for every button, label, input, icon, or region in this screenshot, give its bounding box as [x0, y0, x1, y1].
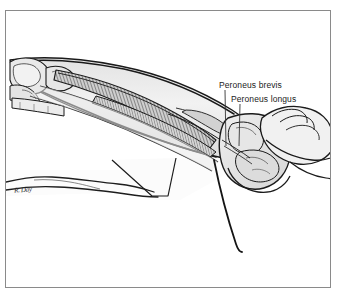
figure-root: Peroneus brevis Peroneus longus R. Day — [0, 0, 337, 299]
label-peroneus-longus: Peroneus longus — [231, 94, 296, 104]
surgical-drape — [6, 152, 252, 200]
artist-signature: R. Day — [14, 185, 32, 194]
label-peroneus-brevis: Peroneus brevis — [219, 80, 282, 90]
anatomy-illustration — [0, 0, 337, 299]
